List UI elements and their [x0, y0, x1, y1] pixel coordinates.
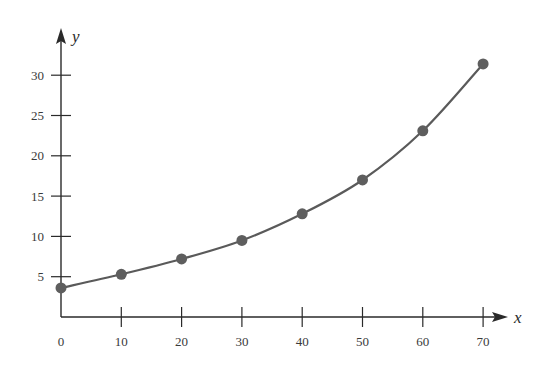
data-markers	[56, 58, 489, 293]
data-point	[297, 208, 308, 219]
x-axis-label: x	[513, 308, 522, 327]
y-tick-label: 15	[31, 189, 44, 204]
tick-labels: 01020304050607051015202530	[31, 68, 490, 349]
y-tick-label: 25	[31, 108, 44, 123]
data-point	[176, 253, 187, 264]
data-point	[478, 58, 489, 69]
chart: 01020304050607051015202530 x y	[0, 0, 543, 366]
data-point	[236, 235, 247, 246]
y-tick-label: 10	[31, 229, 44, 244]
axis-ticks	[51, 75, 483, 327]
data-point	[116, 269, 127, 280]
y-tick-label: 5	[38, 269, 45, 284]
x-tick-label: 50	[356, 334, 369, 349]
data-point	[417, 125, 428, 136]
data-curve	[61, 64, 483, 288]
x-tick-label: 0	[58, 334, 65, 349]
x-tick-label: 10	[115, 334, 128, 349]
data-point	[357, 174, 368, 185]
y-tick-label: 30	[31, 68, 44, 83]
y-axis-label: y	[70, 27, 80, 46]
x-tick-label: 40	[296, 334, 309, 349]
x-tick-label: 30	[235, 334, 248, 349]
x-tick-label: 20	[175, 334, 188, 349]
x-tick-label: 60	[416, 334, 429, 349]
x-tick-label: 70	[477, 334, 490, 349]
data-point	[56, 282, 67, 293]
y-tick-label: 20	[31, 148, 44, 163]
